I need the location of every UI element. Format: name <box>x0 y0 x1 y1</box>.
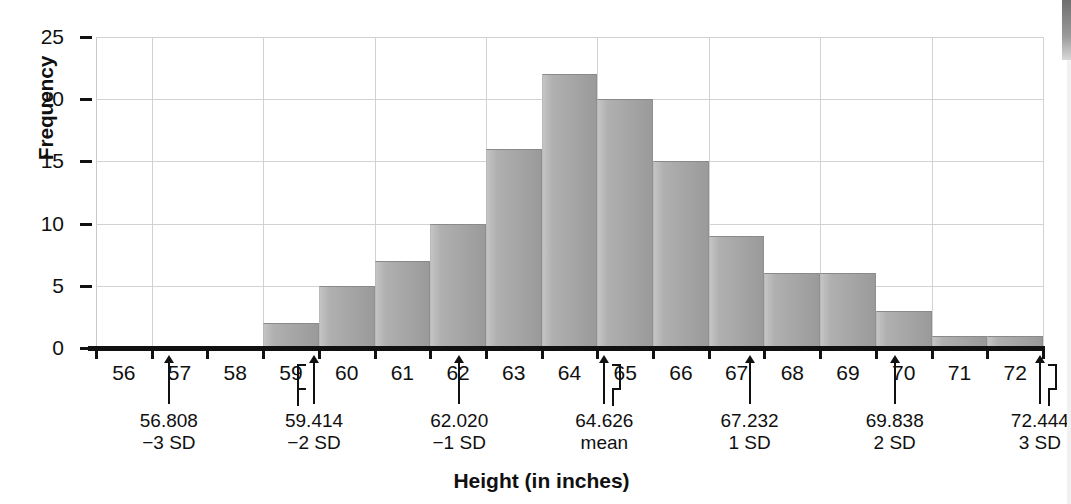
sd-arrow-icon <box>894 362 896 404</box>
histogram-bar <box>876 311 932 348</box>
histogram-bar <box>597 99 653 348</box>
sd-annotation-value: 72.444 <box>974 410 1071 432</box>
x-axis-tick-label: 59 <box>265 361 317 385</box>
sd-annotation-sigma: 1 SD <box>684 432 816 454</box>
histogram-bar <box>542 74 598 348</box>
sd-arrow-icon <box>603 362 605 404</box>
x-axis-tick-mark <box>151 346 154 359</box>
sd-annotation-value: 56.808 <box>103 410 235 432</box>
sd-annotation-sigma: −2 SD <box>248 432 380 454</box>
histogram-bar <box>764 273 820 348</box>
sd-annotation-value: 69.838 <box>829 410 961 432</box>
x-axis-tick-label: 56 <box>98 361 150 385</box>
x-axis-tick-label: 60 <box>321 361 373 385</box>
sd-annotation-label: 67.2321 SD <box>684 410 816 455</box>
sd-arrow-icon <box>749 362 751 404</box>
sd-annotation-label: 69.8382 SD <box>829 410 961 455</box>
x-axis-title: Height (in inches) <box>6 469 1071 493</box>
sd-annotation-label: 64.626mean <box>538 410 670 455</box>
x-axis-tick-label: 64 <box>544 361 596 385</box>
histogram-chart: Frequency 0510152025 5657585960616263646… <box>0 0 1071 504</box>
x-axis-tick-mark <box>374 346 377 359</box>
x-axis-tick-mark <box>206 346 209 359</box>
y-axis-tick-mark <box>80 98 92 101</box>
sd-annotation-value: 67.232 <box>684 410 816 432</box>
x-axis-tick-mark <box>819 346 822 359</box>
y-axis-tick-label: 15 <box>22 150 64 171</box>
sd-annotation-sigma: −3 SD <box>103 432 235 454</box>
page-scan-edge-strip <box>1067 0 1071 504</box>
x-axis-line <box>88 346 1045 351</box>
x-axis-tick-label: 68 <box>766 361 818 385</box>
x-axis-tick-label: 61 <box>376 361 428 385</box>
plot-area <box>96 37 1043 348</box>
y-axis-tick-mark <box>80 160 92 163</box>
x-axis-tick-label: 66 <box>655 361 707 385</box>
histogram-bar <box>709 236 765 348</box>
x-axis-tick-mark <box>262 346 265 359</box>
x-axis-tick-mark <box>429 346 432 359</box>
x-axis-tick-label: 67 <box>711 361 763 385</box>
x-axis-tick-mark <box>708 346 711 359</box>
histogram-bar <box>486 149 542 348</box>
x-axis-tick-mark <box>986 346 989 359</box>
y-axis-tick-mark <box>80 223 92 226</box>
sd-annotation-label: 59.414−2 SD <box>248 410 380 455</box>
sd-annotation-value: 59.414 <box>248 410 380 432</box>
sd-bracket-right-icon <box>1048 364 1057 390</box>
bar-series <box>96 37 1043 348</box>
x-axis-tick-label: 70 <box>878 361 930 385</box>
sd-arrow-icon <box>458 362 460 404</box>
x-axis-tick-label: 63 <box>488 361 540 385</box>
x-axis-tick-label: 72 <box>989 361 1041 385</box>
x-axis-tick-label: 57 <box>154 361 206 385</box>
sd-bracket-stem <box>612 388 614 406</box>
x-axis-tick-mark <box>485 346 488 359</box>
x-axis-tick-label: 69 <box>822 361 874 385</box>
y-axis-tick-label: 5 <box>22 275 64 296</box>
x-axis-tick-mark <box>875 346 878 359</box>
x-axis-tick-mark <box>763 346 766 359</box>
sd-bracket-stem <box>1048 388 1050 406</box>
y-axis-tick-label: 0 <box>22 337 64 358</box>
x-axis-tick-mark <box>652 346 655 359</box>
sd-bracket-left-icon <box>297 364 306 390</box>
sd-bracket-right-icon <box>612 364 621 390</box>
histogram-bar <box>820 273 876 348</box>
histogram-bar <box>319 286 375 348</box>
sd-annotation-value: 62.020 <box>393 410 525 432</box>
y-axis-tick-label: 20 <box>22 88 64 109</box>
sd-annotation-label: 56.808−3 SD <box>103 410 235 455</box>
gridline-vertical <box>1043 37 1044 348</box>
x-axis-tick-label: 65 <box>599 361 651 385</box>
sd-annotation-label: 72.4443 SD <box>974 410 1071 455</box>
y-axis-tick-mark <box>80 36 92 39</box>
sd-annotation-label: 62.020−1 SD <box>393 410 525 455</box>
x-axis-tick-mark <box>541 346 544 359</box>
y-axis-tick-label: 25 <box>22 26 64 47</box>
sd-annotation-sigma: mean <box>538 432 670 454</box>
sd-bracket-stem <box>297 388 299 406</box>
x-axis-tick-mark <box>95 346 98 359</box>
sd-annotation-sigma: −1 SD <box>393 432 525 454</box>
sd-arrow-icon <box>1039 362 1041 404</box>
sd-arrow-icon <box>313 362 315 404</box>
y-axis-tick-label: 10 <box>22 213 64 234</box>
y-axis-tick-mark <box>80 285 92 288</box>
sd-annotation-sigma: 2 SD <box>829 432 961 454</box>
histogram-bar <box>263 323 319 348</box>
x-axis-tick-label: 71 <box>933 361 985 385</box>
histogram-bar <box>375 261 431 348</box>
histogram-bar <box>430 224 486 348</box>
histogram-bar <box>653 161 709 348</box>
page-scan-corner-artifact <box>1062 0 1071 60</box>
sd-annotation-value: 64.626 <box>538 410 670 432</box>
x-axis-tick-mark <box>931 346 934 359</box>
x-axis-tick-label: 58 <box>209 361 261 385</box>
sd-arrow-icon <box>168 362 170 404</box>
sd-annotation-sigma: 3 SD <box>974 432 1071 454</box>
